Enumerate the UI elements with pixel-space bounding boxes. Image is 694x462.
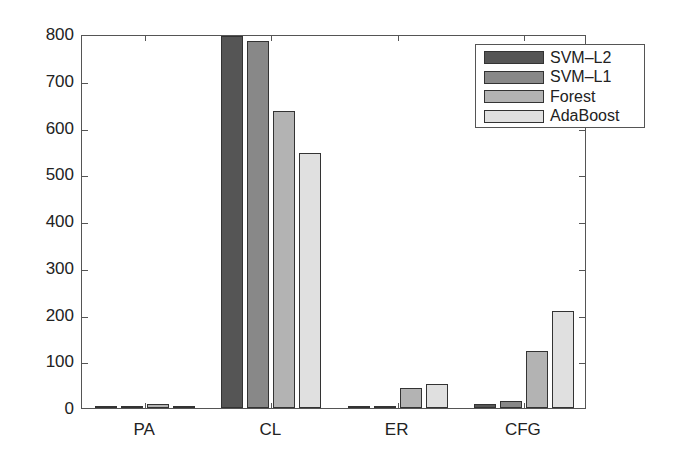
x-tick-top bbox=[524, 36, 525, 41]
legend-swatch bbox=[484, 71, 544, 84]
y-tick-label: 500 bbox=[46, 165, 74, 185]
y-tick-label: 400 bbox=[46, 212, 74, 232]
y-tick-label: 100 bbox=[46, 352, 74, 372]
y-tick-label: 0 bbox=[65, 399, 74, 419]
y-tick bbox=[82, 270, 88, 271]
bar-er-0 bbox=[348, 406, 370, 408]
legend-item: SVM–L2 bbox=[484, 48, 644, 68]
bar-cl-2 bbox=[273, 111, 295, 408]
y-tick-right bbox=[579, 270, 585, 271]
legend-item: Forest bbox=[484, 87, 644, 107]
legend-swatch bbox=[484, 51, 544, 64]
x-tick-top bbox=[145, 36, 146, 41]
bar-cfg-2 bbox=[526, 351, 548, 409]
y-tick-right bbox=[579, 223, 585, 224]
x-tick-label: ER bbox=[385, 420, 409, 440]
y-tick bbox=[82, 83, 88, 84]
bar-er-1 bbox=[374, 406, 396, 408]
x-tick bbox=[145, 403, 146, 408]
y-tick-right bbox=[579, 363, 585, 364]
x-tick-label: CL bbox=[260, 420, 282, 440]
x-tick bbox=[398, 403, 399, 408]
x-tick-label: CFG bbox=[505, 420, 541, 440]
y-tick bbox=[82, 317, 88, 318]
bar-cl-3 bbox=[299, 153, 321, 408]
y-tick-label: 600 bbox=[46, 119, 74, 139]
bar-pa-3 bbox=[173, 406, 195, 408]
bar-pa-2 bbox=[147, 404, 169, 408]
bar-er-2 bbox=[400, 388, 422, 408]
bar-cl-1 bbox=[247, 41, 269, 408]
x-tick-top bbox=[271, 36, 272, 41]
legend-label: SVM–L1 bbox=[550, 68, 611, 86]
x-tick-label: PA bbox=[133, 420, 154, 440]
legend-swatch bbox=[484, 110, 544, 123]
bar-pa-1 bbox=[121, 406, 143, 408]
y-tick-right bbox=[579, 317, 585, 318]
x-tick bbox=[524, 403, 525, 408]
y-tick-label: 300 bbox=[46, 259, 74, 279]
bar-cfg-1 bbox=[500, 401, 522, 408]
y-tick bbox=[82, 223, 88, 224]
legend-label: AdaBoost bbox=[550, 107, 619, 125]
legend-label: Forest bbox=[550, 88, 595, 106]
legend-item: AdaBoost bbox=[484, 107, 644, 127]
legend-swatch bbox=[484, 90, 544, 103]
y-tick-right bbox=[579, 130, 585, 131]
y-tick bbox=[82, 363, 88, 364]
y-tick bbox=[82, 176, 88, 177]
legend: SVM–L2SVM–L1ForestAdaBoost bbox=[475, 44, 645, 128]
legend-label: SVM–L2 bbox=[550, 49, 611, 67]
y-tick-label: 700 bbox=[46, 72, 74, 92]
bar-cfg-0 bbox=[474, 404, 496, 408]
y-tick-right bbox=[579, 176, 585, 177]
y-tick bbox=[82, 130, 88, 131]
bar-er-3 bbox=[426, 384, 448, 408]
y-tick-label: 200 bbox=[46, 306, 74, 326]
bar-pa-0 bbox=[95, 406, 117, 408]
bar-cfg-3 bbox=[552, 311, 574, 408]
x-tick bbox=[271, 403, 272, 408]
bar-cl-0 bbox=[221, 36, 243, 408]
legend-item: SVM–L1 bbox=[484, 68, 644, 88]
x-tick-top bbox=[398, 36, 399, 41]
y-tick-label: 800 bbox=[46, 25, 74, 45]
